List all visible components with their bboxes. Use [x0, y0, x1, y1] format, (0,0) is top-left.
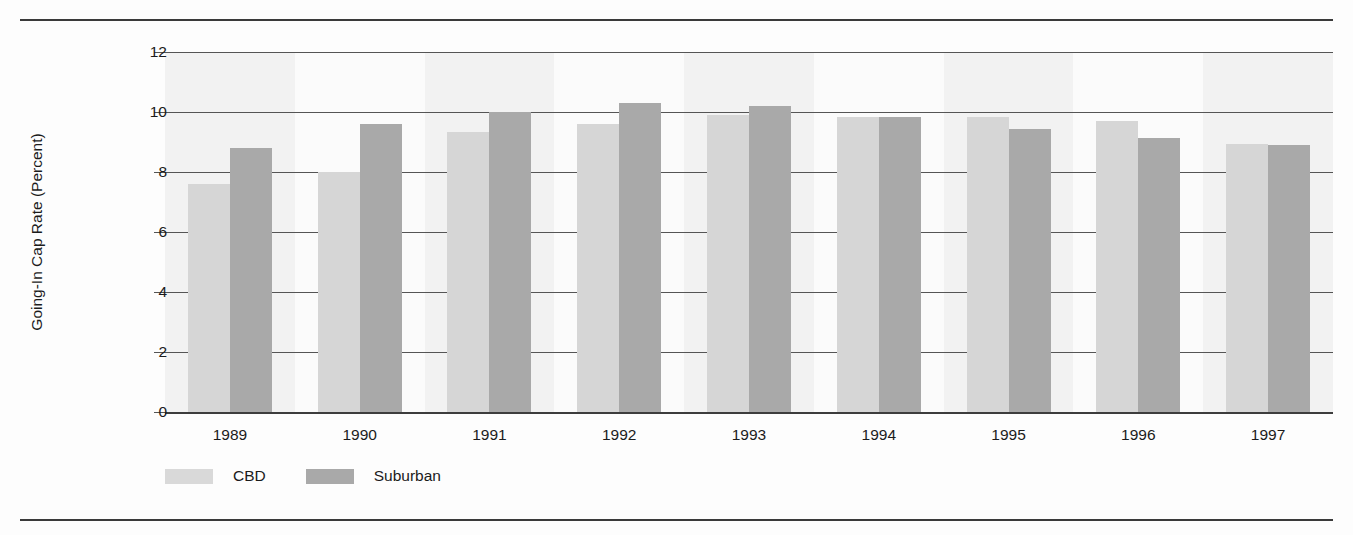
x-tick-label-1994: 1994 — [814, 426, 944, 444]
legend-swatch-cbd — [165, 469, 213, 484]
bar-suburban-1990 — [360, 124, 402, 412]
bar-suburban-1993 — [749, 106, 791, 412]
figure-container: Going-In Cap Rate (Percent) 024681012 19… — [0, 0, 1353, 535]
bar-suburban-1995 — [1009, 129, 1051, 413]
bar-cbd-1990 — [318, 172, 360, 412]
x-tick-label-1989: 1989 — [165, 426, 295, 444]
bar-cbd-1996 — [1096, 121, 1138, 412]
bar-cbd-1991 — [447, 132, 489, 413]
x-tick-label-1991: 1991 — [425, 426, 555, 444]
y-tick-label: 8 — [87, 164, 167, 180]
x-tick-label-1997: 1997 — [1203, 426, 1333, 444]
y-tick-label: 10 — [87, 104, 167, 120]
bar-suburban-1996 — [1138, 138, 1180, 413]
bar-cbd-1994 — [837, 117, 879, 413]
legend-label-suburban: Suburban — [374, 467, 441, 485]
top-rule — [20, 19, 1333, 21]
x-tick-label-1993: 1993 — [684, 426, 814, 444]
y-tick-label: 6 — [87, 224, 167, 240]
x-tick-label-1990: 1990 — [295, 426, 425, 444]
x-tick-label-1995: 1995 — [944, 426, 1074, 444]
legend-label-cbd: CBD — [233, 467, 266, 485]
bar-cbd-1993 — [707, 115, 749, 412]
y-axis-title: Going-In Cap Rate (Percent) — [24, 52, 50, 412]
y-tick-label: 4 — [87, 284, 167, 300]
plot-area — [165, 52, 1333, 412]
bar-suburban-1991 — [489, 112, 531, 412]
bar-suburban-1997 — [1268, 145, 1310, 412]
legend-item-cbd: CBD — [165, 467, 266, 485]
y-tick-label: 12 — [87, 44, 167, 60]
y-axis-title-text: Going-In Cap Rate (Percent) — [28, 133, 46, 330]
gridline — [165, 412, 1333, 414]
y-tick-label: 2 — [87, 344, 167, 360]
x-tick-label-1992: 1992 — [554, 426, 684, 444]
legend-item-suburban: Suburban — [306, 467, 441, 485]
bar-suburban-1994 — [879, 117, 921, 413]
legend: CBD Suburban — [165, 467, 441, 485]
y-tick-label: 0 — [87, 404, 167, 420]
legend-swatch-suburban — [306, 469, 354, 484]
bar-cbd-1997 — [1226, 144, 1268, 413]
bar-suburban-1992 — [619, 103, 661, 412]
gridline — [165, 52, 1333, 53]
bar-suburban-1989 — [230, 148, 272, 412]
bar-cbd-1989 — [188, 184, 230, 412]
bar-cbd-1992 — [577, 124, 619, 412]
x-tick-label-1996: 1996 — [1073, 426, 1203, 444]
bar-cbd-1995 — [967, 117, 1009, 413]
bottom-rule — [20, 519, 1333, 521]
